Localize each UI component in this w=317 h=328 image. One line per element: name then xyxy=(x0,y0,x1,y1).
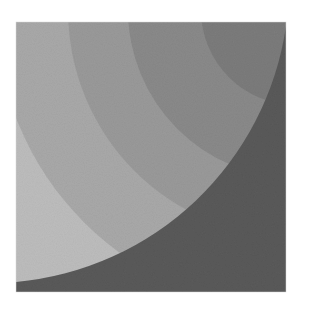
arcs-graphic xyxy=(0,0,317,328)
square-canvas xyxy=(0,0,317,310)
halftone-arcs-figure xyxy=(0,0,317,328)
